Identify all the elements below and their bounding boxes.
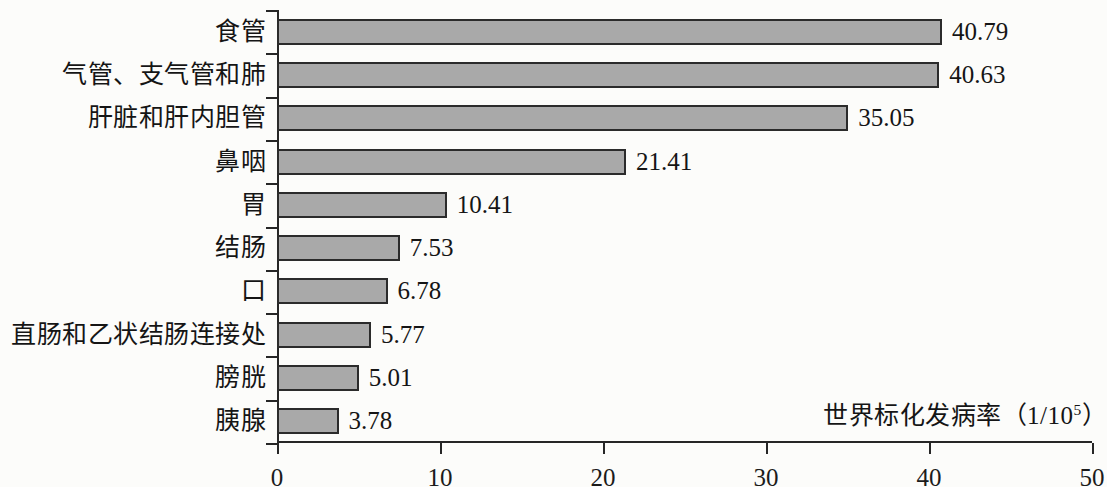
bar-value-label: 40.63 [949,62,1005,87]
bar [277,322,371,348]
bar-row: 40.63 [277,62,1092,88]
y-axis-tick [266,313,277,315]
x-axis-title-exponent: 5 [1073,401,1081,418]
bar [277,105,848,131]
bar-row: 6.78 [277,278,1092,304]
bar [277,278,388,304]
x-axis-line [277,441,1092,443]
y-axis-tick [266,356,277,358]
bar [277,408,339,434]
bar-row: 21.41 [277,149,1092,175]
x-axis-tick [603,443,605,454]
x-axis-tick [1092,443,1094,454]
bar-value-label: 7.53 [410,235,454,260]
y-axis-tick [266,140,277,142]
bar-value-label: 5.01 [369,365,413,390]
bar-row: 5.77 [277,322,1092,348]
category-label: 膀胱 [0,365,266,390]
y-axis-tick [266,400,277,402]
bar-value-label: 10.41 [457,192,513,217]
category-label: 结肠 [0,235,266,260]
bar-value-label: 35.05 [858,105,914,130]
y-axis-tick [266,53,277,55]
bar [277,235,400,261]
plot-area: 01020304050 40.7940.6335.0521.4110.417.5… [277,10,1092,443]
x-axis-title-main: 世界标化发病率（1/10 [823,402,1073,429]
bar-value-label: 21.41 [636,149,692,174]
y-axis-tick [266,10,277,12]
bar-row: 10.41 [277,192,1092,218]
bar [277,365,359,391]
x-axis-tick-label: 0 [271,465,284,487]
x-axis-title-tail: ） [1082,402,1107,429]
x-axis-tick-label: 50 [1080,465,1105,487]
x-axis-tick [440,443,442,454]
x-axis-tick-label: 40 [917,465,942,487]
x-axis-tick-label: 10 [428,465,453,487]
bar-chart: 01020304050 40.7940.6335.0521.4110.417.5… [0,0,1107,487]
y-axis-tick [266,270,277,272]
category-label: 鼻咽 [0,149,266,174]
bar-row: 40.79 [277,19,1092,45]
x-axis-tick [766,443,768,454]
bar-value-label: 3.78 [349,408,393,433]
bar-value-label: 6.78 [398,278,442,303]
x-axis-tick [277,443,279,454]
bar-value-label: 40.79 [952,19,1008,44]
category-label: 直肠和乙状结肠连接处 [0,322,266,347]
x-axis-tick [929,443,931,454]
category-label: 口 [0,278,266,303]
bar [277,19,942,45]
bar-row: 35.05 [277,105,1092,131]
bar [277,192,447,218]
y-axis-tick [266,443,277,445]
x-axis-tick-label: 20 [591,465,616,487]
x-axis-tick-label: 30 [754,465,779,487]
bar-row: 5.01 [277,365,1092,391]
category-label: 胰腺 [0,408,266,433]
bar [277,149,626,175]
category-label: 气管、支气管和肺 [0,62,266,87]
category-label: 胃 [0,192,266,217]
y-axis-tick [266,183,277,185]
bar [277,62,939,88]
bar-row: 7.53 [277,235,1092,261]
category-label: 食管 [0,19,266,44]
x-axis-title: 世界标化发病率（1/105） [823,403,1107,428]
y-axis-tick [266,227,277,229]
bar-value-label: 5.77 [381,322,425,347]
category-label: 肝脏和肝内胆管 [0,105,266,130]
y-axis-tick [266,97,277,99]
